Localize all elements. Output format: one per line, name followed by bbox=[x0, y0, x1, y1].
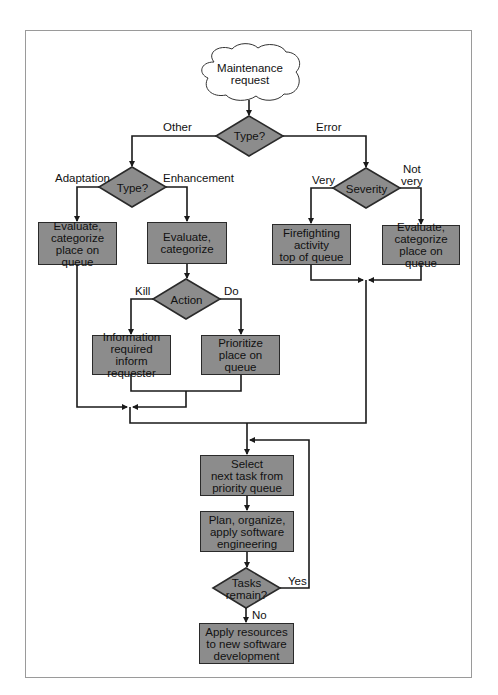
process-adaptation-evaluate: Evaluate, categorize place on queue bbox=[38, 222, 117, 265]
edge-label-very: Very bbox=[312, 174, 335, 186]
decision-action: Action bbox=[153, 292, 220, 308]
edge-label-no: No bbox=[252, 609, 267, 621]
edge-label-not-very: Not very bbox=[401, 163, 423, 187]
decision-type-top: Type? bbox=[216, 128, 283, 144]
process-enhancement-evaluate: Evaluate, categorize bbox=[147, 222, 227, 264]
edge-label-adaptation: Adaptation bbox=[55, 172, 110, 184]
decision-severity: Severity bbox=[333, 181, 400, 197]
edge-label-enhancement: Enhancement bbox=[163, 172, 234, 184]
decision-tasks-remain: Tasks remain? bbox=[213, 576, 280, 602]
edge-label-other: Other bbox=[163, 121, 192, 133]
process-notvery-evaluate: Evaluate, categorize place on queue bbox=[382, 225, 460, 265]
process-information-required: Information required inform requester bbox=[92, 335, 171, 375]
start-maintenance-request: Maintenance request bbox=[205, 56, 295, 92]
edge-label-yes: Yes bbox=[288, 575, 307, 587]
edge-label-kill: Kill bbox=[135, 285, 150, 297]
process-prioritize: Prioritize place on queue bbox=[201, 335, 280, 375]
flowchart-canvas: Maintenance request Type? Type? Severity… bbox=[0, 0, 498, 695]
process-apply-resources: Apply resources to new software developm… bbox=[199, 623, 294, 664]
edge-label-do: Do bbox=[224, 285, 239, 297]
edge-label-error: Error bbox=[316, 121, 342, 133]
process-firefighting: Firefighting activity top of queue bbox=[272, 224, 351, 265]
process-plan-organize: Plan, organize, apply software engineeri… bbox=[200, 511, 294, 552]
process-select-next-task: Select next task from priority queue bbox=[200, 455, 294, 496]
